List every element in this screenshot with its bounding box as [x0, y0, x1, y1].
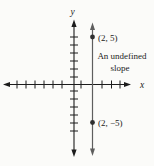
coordinate-plane: x y (2, 5) (2, −5) An undefined slope — [0, 0, 154, 166]
annotation-line2: slope — [111, 63, 130, 73]
y-axis-label: y — [69, 7, 75, 17]
vertical-line-x-equals-2 — [90, 23, 95, 157]
point-bottom-label: (2, −5) — [98, 118, 123, 128]
y-axis: y — [69, 7, 78, 157]
plotted-point — [90, 35, 95, 40]
x-axis-label: x — [139, 80, 145, 90]
x-axis-right-arrow-icon — [124, 82, 131, 87]
vertical-line-bottom-arrow-icon — [90, 149, 95, 157]
point-top-label: (2, 5) — [98, 33, 118, 43]
plotted-point — [90, 120, 95, 125]
x-axis-left-arrow-icon — [3, 82, 10, 87]
y-axis-top-arrow-icon — [71, 20, 76, 28]
vertical-line-top-arrow-icon — [90, 23, 95, 31]
undefined-slope-figure: x y (2, 5) (2, −5) An undefined slope — [0, 0, 154, 166]
y-axis-bottom-arrow-icon — [71, 150, 76, 158]
annotation-line1: An undefined — [97, 51, 147, 61]
